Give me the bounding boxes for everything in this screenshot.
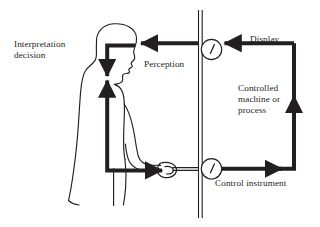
label-control-instrument: Control instrument (215, 178, 286, 189)
label-perception: Perception (144, 59, 184, 70)
label-controlled-line2: machine or (238, 94, 280, 104)
label-interpretation-decision: Interpretationdecision (14, 39, 65, 61)
label-interpretation-line1: Interpretation (14, 39, 65, 49)
operator-figure (69, 24, 161, 206)
label-controlled-line1: Controlled (238, 83, 278, 93)
control-gauge-icon (201, 159, 221, 179)
flow-interpretation-down (107, 46, 135, 76)
display-gauge-icon (201, 39, 221, 59)
flow-decision-to-hand (107, 84, 162, 170)
flow-corner-bottom-right (278, 160, 294, 169)
label-controlled-line3: process (238, 105, 266, 115)
panel-divider (199, 10, 203, 218)
hand-control-icon (157, 162, 198, 177)
label-display: Display (250, 34, 279, 45)
label-interpretation-line2: decision (14, 50, 45, 60)
label-controlled-machine: Controlledmachine orprocess (238, 83, 280, 117)
diagram-canvas: Interpretationdecision Perception Displa… (0, 0, 320, 227)
